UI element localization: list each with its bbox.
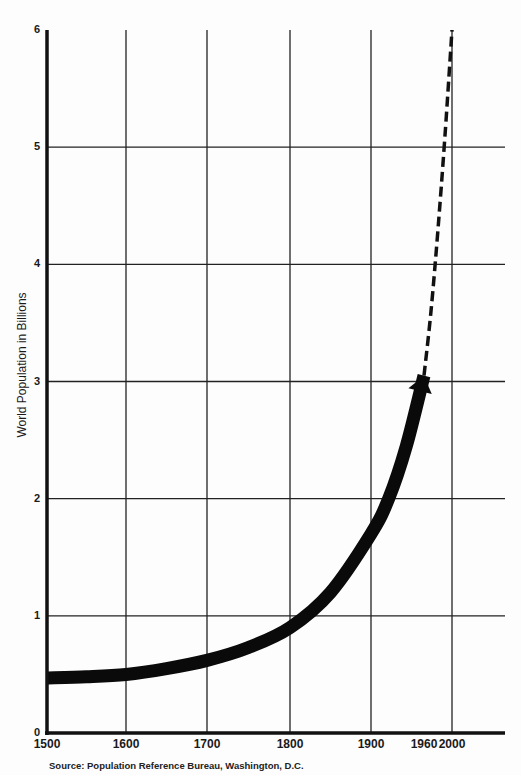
population-chart: [0, 0, 521, 775]
y-tick-label: 4: [26, 257, 40, 269]
population-curve: [47, 376, 424, 678]
y-axis-label: World Population in Billions: [15, 292, 29, 437]
x-tick-label: 1600: [113, 737, 140, 751]
chart-curves: [47, 30, 452, 678]
chart-grid: [47, 30, 505, 733]
y-tick-label: 5: [26, 140, 40, 152]
y-tick-label: 6: [26, 23, 40, 35]
x-tick-label: 2000: [439, 737, 466, 751]
x-tick-label: 1700: [194, 737, 221, 751]
y-tick-label: 2: [26, 492, 40, 504]
x-tick-label: 1800: [277, 737, 304, 751]
source-note: Source: Population Reference Bureau, Was…: [49, 760, 304, 771]
projection-dashed-line: [424, 30, 452, 376]
x-tick-label: 1500: [34, 737, 61, 751]
x-tick-label: 1960: [411, 737, 438, 751]
y-tick-label: 1: [26, 609, 40, 621]
x-tick-label: 1900: [358, 737, 385, 751]
